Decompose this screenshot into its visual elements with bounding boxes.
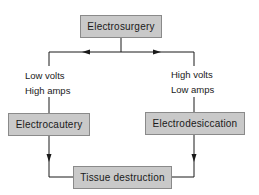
node-electrodesiccation: Electrodesiccation <box>145 112 245 135</box>
node-tissue-destruction: Tissue destruction <box>73 166 172 189</box>
node-label: Tissue destruction <box>80 172 164 183</box>
node-label: Electrosurgery <box>87 21 154 32</box>
arrow-down-right-icon <box>192 154 197 162</box>
right-branch-label: High volts Low amps <box>171 67 214 97</box>
node-electrocautery: Electrocautery <box>8 113 90 136</box>
arrow-left-icon <box>82 50 90 55</box>
arrow-down-left-icon <box>47 154 52 162</box>
node-label: Electrodesiccation <box>153 118 238 129</box>
left-branch-label: Low volts High amps <box>25 68 70 98</box>
right-branch-line1: High volts <box>171 67 214 82</box>
node-label: Electrocautery <box>16 119 83 130</box>
right-branch-line2: Low amps <box>171 82 214 97</box>
left-branch-line2: High amps <box>25 83 70 98</box>
arrow-right-icon <box>153 50 161 55</box>
left-branch-line1: Low volts <box>25 68 70 83</box>
node-electrosurgery: Electrosurgery <box>80 15 162 38</box>
